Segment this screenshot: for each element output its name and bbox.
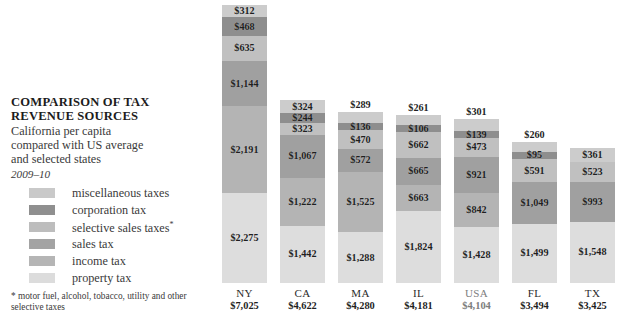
bar-segment-value: $842 [466,205,486,215]
bar-segment-value: $1,049 [520,198,548,208]
x-axis-total-value: $3,494 [512,300,557,312]
chart-root: COMPARISON OF TAX REVENUE SOURCES Califo… [0,0,626,330]
bar-segment: $95 [512,152,557,159]
bar-segment: $312 [222,5,267,17]
bar-group-ny: $312$468$635$1,144$2,191$2,275NY$7,025 [222,5,267,283]
x-axis-total-value: $4,622 [280,300,325,312]
bar-segment: $1,049 [512,182,557,224]
bar-segment: $993 [570,182,615,221]
bar-segment: $1,525 [338,172,383,232]
bar-segment: $136 [338,123,383,130]
bar-group-fl: $260$95$591$1,049$1,499FL$3,494 [512,142,557,283]
x-axis-label: NY$7,025 [222,283,267,312]
bar-segment-value: $2,191 [230,145,258,155]
stacked-bar: $301$139$473$921$842$1,428USA$4,104 [454,119,499,283]
bar-segment: $1,824 [396,211,441,283]
stacked-bar: $324$244$323$1,067$1,222$1,442CA$4,622 [280,100,325,283]
bar-segment-value: $662 [408,140,428,150]
bar-segment: $1,067 [280,135,325,177]
plot-area: $312$468$635$1,144$2,191$2,275NY$7,025$3… [0,0,626,330]
x-axis-label: IL$4,181 [396,283,441,312]
x-axis-label: USA$4,104 [454,283,499,312]
x-axis-label: FL$3,494 [512,283,557,312]
x-axis-label: CA$4,622 [280,283,325,312]
bar-segment-value: $663 [408,193,428,203]
bar-segment-value: $921 [466,170,486,180]
bar-segment-value: $635 [234,43,254,53]
bar-segment: $1,499 [512,224,557,283]
bar-segment-value: $473 [466,142,486,152]
bar-segment: $1,222 [280,178,325,226]
bar-segment-value: $260 [524,130,544,140]
x-axis-state-name: IL [396,288,441,300]
x-axis-state-name: TX [570,288,615,300]
bar-segment-value: $1,548 [578,247,606,257]
bar-segment-value: $1,222 [288,197,316,207]
bar-segment: $473 [454,138,499,157]
bar-segment: $323 [280,123,325,136]
bar-segment-value: $361 [582,150,602,160]
stacked-bar: $312$468$635$1,144$2,191$2,275NY$7,025 [222,5,267,283]
bar-segment-value: $591 [524,166,544,176]
bar-segment: $244 [280,113,325,123]
bar-segment: $2,191 [222,106,267,193]
bar-segment: $2,275 [222,193,267,283]
bar-segment-value: $1,428 [462,250,490,260]
x-axis-state-name: MA [338,288,383,300]
bar-segment-value: $1,824 [404,242,432,252]
bar-segment: $1,428 [454,227,499,284]
bar-segment-value: $1,525 [346,197,374,207]
x-axis-total-value: $4,104 [454,300,499,312]
bar-segment: $635 [222,36,267,61]
bar-group-ma: $289$136$470$572$1,525$1,288MA$4,280 [338,112,383,283]
bar-segment-value: $523 [582,167,602,177]
stacked-bar: $289$136$470$572$1,525$1,288MA$4,280 [338,112,383,283]
bar-segment-value: $289 [350,100,370,110]
bar-segment-value: $1,067 [288,151,316,161]
bar-segment-value: $572 [350,155,370,165]
bar-segment: $361 [570,148,615,162]
bar-segment-value: $312 [234,6,254,16]
bar-segment-value: $1,442 [288,249,316,259]
x-axis-total-value: $7,025 [222,300,267,312]
x-axis-state-name: NY [222,288,267,300]
bar-segment-value: $993 [582,197,602,207]
x-axis-label: TX$3,425 [570,283,615,312]
x-axis-state-name: FL [512,288,557,300]
bar-segment-value: $244 [292,113,312,123]
x-axis-state-name: USA [454,288,499,300]
bar-segment: $842 [454,193,499,226]
x-axis-total-value: $3,425 [570,300,615,312]
bar-segment-value: $1,288 [346,253,374,263]
bar-segment: $468 [222,17,267,36]
bar-group-usa: $301$139$473$921$842$1,428USA$4,104 [454,119,499,283]
bar-segment: $523 [570,162,615,183]
bar-segment-value: $261 [408,103,428,113]
bar-segment-value: $1,144 [230,79,258,89]
bar-segment: $663 [396,185,441,211]
bar-segment: $591 [512,159,557,182]
bar-segment: $1,442 [280,226,325,283]
bar-segment: $1,288 [338,232,383,283]
bar-segment: $662 [396,132,441,158]
x-axis-total-value: $4,181 [396,300,441,312]
bar-segment-value: $2,275 [230,233,258,243]
bar-group-il: $261$106$662$665$663$1,824IL$4,181 [396,115,441,283]
bar-segment-value: $470 [350,135,370,145]
bar-segment: $470 [338,130,383,149]
bar-segment: $572 [338,149,383,172]
x-axis-state-name: CA [280,288,325,300]
bar-segment: $106 [396,125,441,132]
stacked-bar: $261$106$662$665$663$1,824IL$4,181 [396,115,441,283]
x-axis-total-value: $4,280 [338,300,383,312]
bar-segment-value: $1,499 [520,248,548,258]
stacked-bar: $361$523$993$1,548TX$3,425 [570,148,615,284]
bar-segment: $139 [454,131,499,138]
bar-segment-value: $324 [292,102,312,112]
stacked-bar: $260$95$591$1,049$1,499FL$3,494 [512,142,557,283]
bar-group-tx: $361$523$993$1,548TX$3,425 [570,148,615,284]
bar-group-ca: $324$244$323$1,067$1,222$1,442CA$4,622 [280,100,325,283]
bar-segment: $1,548 [570,222,615,283]
bar-segment-value: $468 [234,22,254,32]
bar-segment: $921 [454,157,499,193]
